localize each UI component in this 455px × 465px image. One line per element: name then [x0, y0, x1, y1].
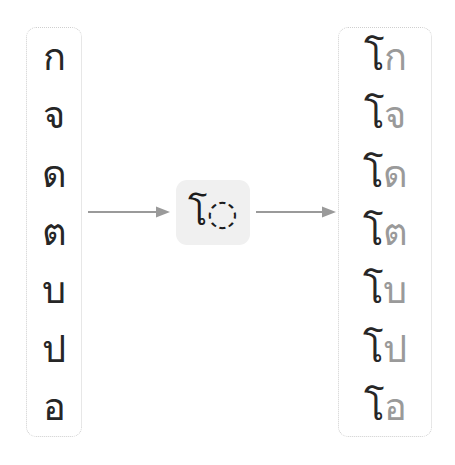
- output-consonant: บ: [383, 271, 407, 309]
- output-item: โบ: [363, 271, 407, 309]
- input-item: อ: [43, 388, 66, 426]
- arrow-rule-to-output-icon: [256, 205, 336, 219]
- input-item: ด: [42, 155, 67, 193]
- output-item: โอ: [364, 388, 407, 426]
- rule-glyph: โ◌: [188, 195, 238, 231]
- output-consonant: ก: [384, 38, 407, 76]
- output-item: โป: [363, 330, 407, 368]
- input-item: จ: [43, 96, 65, 134]
- diagram-canvas: ก จ ด ต บ ป อ โ◌ โก โจ โด โต โบ โ: [0, 0, 455, 465]
- output-consonant: ด: [383, 155, 408, 193]
- output-vowel: โ: [364, 38, 384, 76]
- input-item: ป: [42, 330, 66, 368]
- arrow-input-to-rule-icon: [88, 205, 170, 219]
- output-vowel: โ: [363, 213, 383, 251]
- output-consonant: อ: [384, 388, 407, 426]
- output-item: โก: [364, 38, 407, 76]
- output-item: โจ: [364, 96, 406, 134]
- output-item: โด: [363, 155, 408, 193]
- input-item: ต: [42, 213, 67, 251]
- output-vowel: โ: [364, 388, 384, 426]
- input-item: บ: [42, 271, 66, 309]
- output-vowel: โ: [364, 96, 384, 134]
- output-consonant: ต: [383, 213, 408, 251]
- input-item: ก: [43, 38, 66, 76]
- output-vowel: โ: [363, 330, 383, 368]
- output-vowel: โ: [363, 271, 383, 309]
- vowel-prefix-rule-box: โ◌: [176, 180, 250, 245]
- output-syllable-list: โก โจ โด โต โบ โป โอ: [338, 27, 432, 437]
- output-vowel: โ: [363, 155, 383, 193]
- input-consonant-list: ก จ ด ต บ ป อ: [26, 27, 82, 437]
- output-consonant: จ: [384, 96, 406, 134]
- output-item: โต: [363, 213, 408, 251]
- output-consonant: ป: [383, 330, 407, 368]
